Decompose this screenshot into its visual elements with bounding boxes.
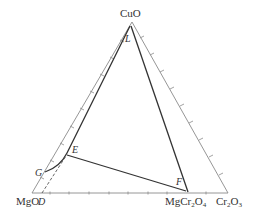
vertex-label-cr2o3: Cr2O3 <box>216 195 242 209</box>
point-label-F: F <box>175 176 183 187</box>
outer-triangle <box>32 22 228 193</box>
right-edge-ticks <box>140 36 223 175</box>
boundary-E-F <box>67 155 186 191</box>
point-label-D: D <box>37 196 46 207</box>
phase-lines <box>45 26 188 192</box>
ternary-diagram: CuO MgO Cr2O3 MgCr2O4 L E F G D <box>0 0 264 218</box>
point-label-G: G <box>35 167 42 178</box>
vertex-label-cuo: CuO <box>120 7 141 19</box>
boundary-L-F <box>131 26 188 192</box>
point-label-L: L <box>124 33 131 44</box>
vertex-label-mgo: MgO <box>16 195 39 207</box>
dashed-line-D <box>42 156 66 193</box>
compound-label-mgcr2o4: MgCr2O4 <box>165 195 207 209</box>
point-label-E: E <box>71 144 78 155</box>
